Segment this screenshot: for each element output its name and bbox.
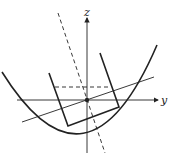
y-axis-label: y (160, 94, 168, 107)
z-axis-label: z (83, 6, 90, 19)
origin-point (85, 98, 89, 102)
diagram-canvas: z y (0, 0, 172, 161)
